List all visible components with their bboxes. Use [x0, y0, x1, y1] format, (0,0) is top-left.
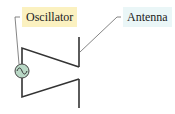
oscillator-label: Oscillator [22, 7, 77, 27]
antenna-leader-line [80, 17, 121, 52]
antenna-label: Antenna [123, 7, 172, 27]
bottom-wire [22, 78, 79, 97]
top-wire [22, 48, 79, 67]
oscillator-leader-line [15, 17, 20, 64]
